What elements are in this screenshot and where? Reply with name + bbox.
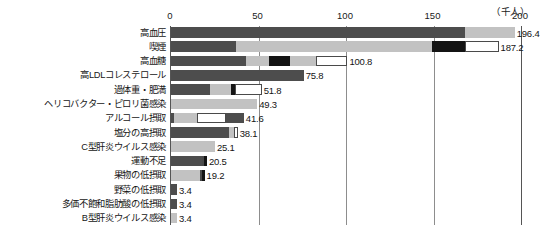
stacked-bar (171, 199, 177, 210)
category-label: 多価不飽和脂肪酸の低摂取 (62, 199, 166, 209)
bar-row: 運動不足20.5 (0, 155, 545, 168)
stacked-bar (171, 213, 177, 224)
bar-row: 高LDLコレステロール75.8 (0, 69, 545, 82)
bar-segment-mid (236, 41, 432, 52)
bar-row: 果物の低摂取19.2 (0, 169, 545, 182)
bar-row: 野菜の低摂取3.4 (0, 183, 545, 196)
bar-segment-white (234, 127, 238, 138)
bar-row: アルコール摂取41.6 (0, 112, 545, 125)
bar-segment-dark (171, 184, 177, 195)
bar-segment-mid (171, 141, 215, 152)
stacked-bar (171, 99, 257, 110)
x-axis-tick-labels: 050100150200 (0, 0, 545, 26)
value-label: 25.1 (217, 141, 235, 152)
bar-row: 塩分の高摂取38.1 (0, 126, 545, 139)
bar-segment-white (235, 84, 262, 95)
value-label: 51.8 (264, 84, 282, 95)
category-label: 喫煙 (149, 42, 166, 52)
category-label: C型肝炎ウイルス感染 (81, 142, 166, 152)
bar-segment-dark (226, 113, 244, 124)
category-label: 果物の低摂取 (114, 170, 166, 180)
bar-segment-mid (171, 99, 257, 110)
category-label: B型肝炎ウイルス感染 (82, 213, 166, 223)
value-label: 3.4 (179, 184, 192, 195)
bar-segment-dark (171, 199, 177, 210)
stacked-bar (171, 141, 215, 152)
category-label: 過体重・肥満 (114, 85, 166, 95)
category-label: 高血圧 (140, 28, 166, 38)
category-label: アルコール摂取 (105, 113, 166, 123)
value-label: 49.3 (259, 99, 277, 110)
stacked-bar (171, 184, 177, 195)
x-tick-50: 50 (252, 10, 263, 21)
stacked-bar (171, 113, 244, 124)
value-label: 41.6 (246, 113, 264, 124)
bar-segment-mid (171, 170, 200, 181)
bar-segment-dark (171, 27, 465, 38)
value-label: 100.8 (349, 56, 372, 67)
value-label: 38.1 (240, 127, 258, 138)
value-label: 187.2 (501, 41, 524, 52)
bar-row: 多価不飽和脂肪酸の低摂取3.4 (0, 197, 545, 210)
value-label: 20.5 (209, 156, 227, 167)
bar-row: 過体重・肥満51.8 (0, 83, 545, 96)
bar-segment-dark (171, 41, 236, 52)
bar-segment-black (202, 170, 205, 181)
value-label: 3.4 (179, 198, 192, 209)
category-label: 高血糖 (140, 56, 166, 66)
bar-row: C型肝炎ウイルス感染25.1 (0, 140, 545, 153)
bar-segment-white (197, 113, 227, 124)
value-label: 75.8 (306, 70, 324, 81)
x-tick-200: 200 (512, 10, 528, 21)
bar-segment-white (316, 56, 347, 67)
stacked-bar (171, 170, 205, 181)
category-label: ヘリコバクター・ピロリ菌感染 (44, 99, 166, 109)
stacked-bar (171, 84, 262, 95)
bar-segment-mid (465, 27, 515, 38)
bar-segment-dark (171, 156, 202, 167)
category-label: 野菜の低摂取 (114, 185, 166, 195)
stacked-bar (171, 41, 499, 52)
bar-row: 高血圧196.4 (0, 26, 545, 39)
bar-segment-mid (171, 213, 177, 224)
x-tick-150: 150 (425, 10, 441, 21)
bar-segment-black (269, 56, 290, 67)
x-tick-100: 100 (337, 10, 353, 21)
category-label: 塩分の高摂取 (114, 128, 166, 138)
horizontal-bar-chart: （千人） 050100150200 高血圧196.4喫煙187.2高血糖100.… (0, 0, 545, 242)
bar-rows: 高血圧196.4喫煙187.2高血糖100.8高LDLコレステロール75.8過体… (0, 26, 545, 226)
value-label: 19.2 (207, 170, 225, 181)
bar-segment-dark (171, 56, 246, 67)
x-tick-0: 0 (167, 10, 172, 21)
bar-row: ヘリコバクター・ピロリ菌感染49.3 (0, 97, 545, 110)
stacked-bar (171, 56, 347, 67)
value-label: 3.4 (179, 213, 192, 224)
bar-segment-mid (174, 113, 197, 124)
bar-segment-mid (290, 56, 316, 67)
stacked-bar (171, 127, 238, 138)
bar-segment-mid (210, 84, 231, 95)
value-label: 196.4 (517, 27, 540, 38)
bar-row: B型肝炎ウイルス感染3.4 (0, 212, 545, 225)
category-label: 運動不足 (131, 156, 166, 166)
bar-row: 高血糖100.8 (0, 55, 545, 68)
bar-segment-dark (171, 70, 304, 81)
stacked-bar (171, 70, 304, 81)
stacked-bar (171, 156, 207, 167)
bar-segment-dark (171, 84, 210, 95)
bar-segment-black (204, 156, 207, 167)
bar-segment-black (432, 41, 465, 52)
category-label: 高LDLコレステロール (80, 70, 166, 80)
bar-row: 喫煙187.2 (0, 40, 545, 53)
bar-segment-white (465, 41, 499, 52)
stacked-bar (171, 27, 515, 38)
bar-segment-mid (246, 56, 269, 67)
bar-segment-dark (171, 127, 229, 138)
